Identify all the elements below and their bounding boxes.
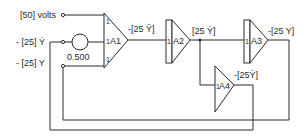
- a3-output-label: -[25 Y]: [268, 26, 294, 36]
- input-label-neg-25-y: - [25] Y: [16, 58, 45, 68]
- a1-gain-1: 1: [106, 18, 110, 25]
- a2-gain: 1: [167, 38, 171, 45]
- input-label-neg-25-ydot: - [25] Ẏ: [16, 37, 45, 47]
- input-terminal-50-volts[interactable]: [61, 13, 64, 16]
- a1-output-label: -[25 Ÿ]: [128, 24, 155, 34]
- a4-label: A4: [219, 81, 230, 91]
- input-terminal-neg-25-ydot[interactable]: [61, 40, 64, 43]
- a1-label: A1: [110, 36, 121, 46]
- analog-computer-diagram: [50] volts - [25] Ẏ - [25] Y 0.500 1 1 1…: [0, 0, 307, 136]
- potentiometer-setting: 0.500: [67, 52, 90, 62]
- a1-gain-3: 1: [106, 56, 110, 63]
- a3-label: A3: [251, 36, 262, 46]
- a2-label: A2: [173, 36, 184, 46]
- input-label-50-volts: [50] volts: [20, 10, 57, 20]
- potentiometer-icon[interactable]: [72, 34, 88, 50]
- input-terminal-neg-25-y[interactable]: [61, 64, 64, 67]
- a3-gain: 1: [245, 38, 249, 45]
- a2-output-label: [25 Ẏ]: [192, 26, 216, 36]
- a4-output-label: -[25Ẏ]: [234, 70, 258, 80]
